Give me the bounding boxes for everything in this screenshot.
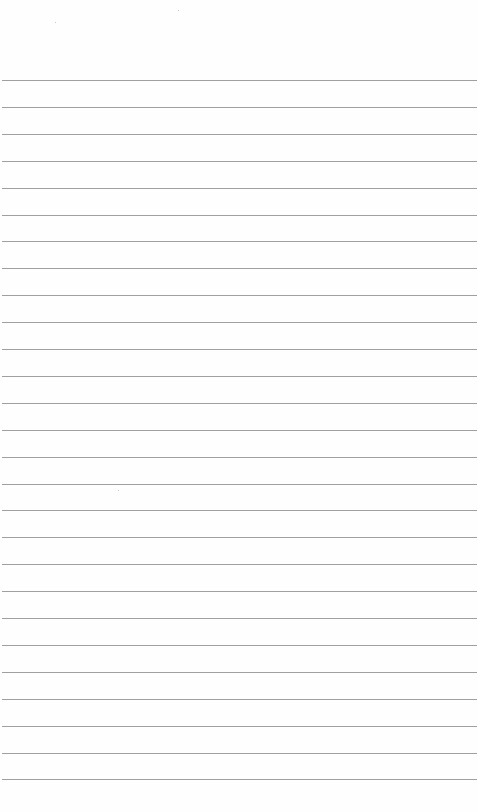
ruled-line: [2, 753, 477, 754]
ruled-line: [2, 295, 477, 296]
ruled-line: [2, 618, 477, 619]
lined-paper-page: [0, 0, 478, 812]
ruled-line: [2, 241, 477, 242]
ruled-line: [2, 80, 477, 81]
ruled-line: [2, 376, 477, 377]
scan-speck: [118, 490, 119, 491]
ruled-line: [2, 430, 477, 431]
ruled-line: [2, 510, 477, 511]
ruled-line: [2, 349, 477, 350]
ruled-line: [2, 779, 477, 780]
ruled-line: [2, 591, 477, 592]
ruled-line: [2, 107, 477, 108]
ruled-line: [2, 484, 477, 485]
ruled-line: [2, 322, 477, 323]
ruled-line: [2, 403, 477, 404]
ruled-line: [2, 699, 477, 700]
scan-speck: [55, 22, 56, 23]
ruled-line: [2, 672, 477, 673]
ruled-line: [2, 537, 477, 538]
ruled-line: [2, 457, 477, 458]
scan-speck: [178, 10, 179, 11]
ruled-line: [2, 134, 477, 135]
ruled-line: [2, 215, 477, 216]
ruled-line: [2, 188, 477, 189]
ruled-line: [2, 645, 477, 646]
ruled-line: [2, 564, 477, 565]
ruled-line: [2, 268, 477, 269]
ruled-line: [2, 161, 477, 162]
ruled-line: [2, 726, 477, 727]
